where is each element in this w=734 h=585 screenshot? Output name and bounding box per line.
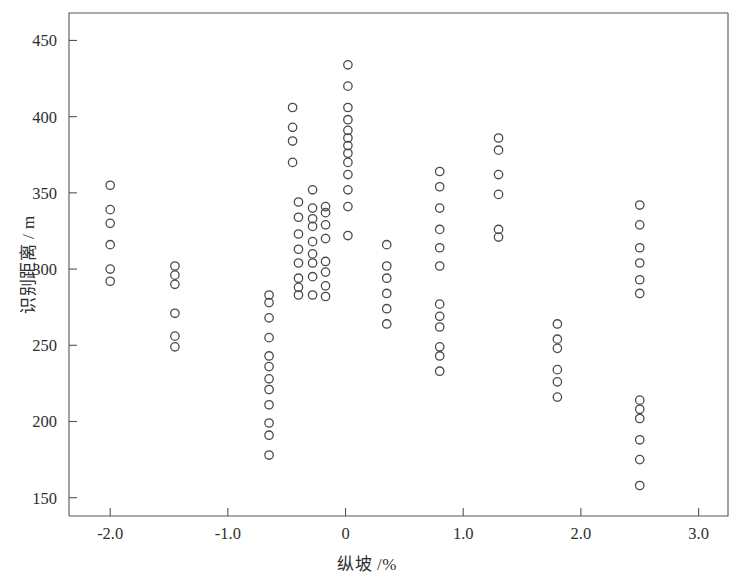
data-point-marker xyxy=(265,333,273,341)
x-tick-label: 1.0 xyxy=(453,524,474,543)
data-point-marker xyxy=(636,414,644,422)
data-point-marker xyxy=(636,481,644,489)
x-axis-title: 纵坡 /% xyxy=(0,550,734,575)
data-point-marker xyxy=(321,282,329,290)
data-point-marker xyxy=(553,335,561,343)
y-tick-label: 200 xyxy=(32,412,57,431)
data-point-marker xyxy=(106,265,114,273)
data-points-group xyxy=(106,61,644,490)
y-tick-label: 450 xyxy=(32,31,57,50)
data-point-marker xyxy=(106,277,114,285)
data-point-marker xyxy=(636,259,644,267)
data-point-marker xyxy=(265,352,273,360)
data-point-marker xyxy=(288,123,296,131)
data-point-marker xyxy=(321,208,329,216)
data-point-marker xyxy=(435,312,443,320)
data-point-marker xyxy=(308,237,316,245)
data-point-marker xyxy=(294,198,302,206)
data-point-marker xyxy=(344,61,352,69)
axes-group xyxy=(69,13,728,516)
data-point-marker xyxy=(294,259,302,267)
data-point-marker xyxy=(494,170,502,178)
data-point-marker xyxy=(265,362,273,370)
plot-frame-bottom-right xyxy=(69,13,728,516)
x-tick-label: 0 xyxy=(341,524,349,543)
data-point-marker xyxy=(636,201,644,209)
data-point-marker xyxy=(294,245,302,253)
data-point-marker xyxy=(344,116,352,124)
data-point-marker xyxy=(106,240,114,248)
data-point-marker xyxy=(308,291,316,299)
data-point-marker xyxy=(171,332,179,340)
data-point-marker xyxy=(321,257,329,265)
data-point-marker xyxy=(553,344,561,352)
data-point-marker xyxy=(494,190,502,198)
data-point-marker xyxy=(294,274,302,282)
data-point-marker xyxy=(494,134,502,142)
data-point-marker xyxy=(636,221,644,229)
data-point-marker xyxy=(288,103,296,111)
data-point-marker xyxy=(553,365,561,373)
data-point-marker xyxy=(288,137,296,145)
data-point-marker xyxy=(435,300,443,308)
data-point-marker xyxy=(435,352,443,360)
data-point-marker xyxy=(265,419,273,427)
data-point-marker xyxy=(636,455,644,463)
data-point-marker xyxy=(636,244,644,252)
data-point-marker xyxy=(383,305,391,313)
data-point-marker xyxy=(106,205,114,213)
data-point-marker xyxy=(344,186,352,194)
data-point-marker xyxy=(106,219,114,227)
data-point-marker xyxy=(553,320,561,328)
data-point-marker xyxy=(171,271,179,279)
data-point-marker xyxy=(321,234,329,242)
data-point-marker xyxy=(435,323,443,331)
data-point-marker xyxy=(383,240,391,248)
data-point-marker xyxy=(344,170,352,178)
data-point-marker xyxy=(106,181,114,189)
data-point-marker xyxy=(344,202,352,210)
data-point-marker xyxy=(294,213,302,221)
data-point-marker xyxy=(265,401,273,409)
axis-tick-labels-group: 150200250300350400450-2.0-1.001.02.03.0 xyxy=(32,31,709,543)
data-point-marker xyxy=(171,280,179,288)
data-point-marker xyxy=(435,262,443,270)
plot-canvas: 150200250300350400450-2.0-1.001.02.03.0 xyxy=(0,0,734,585)
data-point-marker xyxy=(435,343,443,351)
y-axis-title: 识别距离 / m xyxy=(14,195,39,335)
data-point-marker xyxy=(553,378,561,386)
data-point-marker xyxy=(321,221,329,229)
data-point-marker xyxy=(308,259,316,267)
data-point-marker xyxy=(435,367,443,375)
x-tick-label: -1.0 xyxy=(215,524,241,543)
data-point-marker xyxy=(383,262,391,270)
data-point-marker xyxy=(308,204,316,212)
data-point-marker xyxy=(553,393,561,401)
data-point-marker xyxy=(383,274,391,282)
data-point-marker xyxy=(494,146,502,154)
data-point-marker xyxy=(636,289,644,297)
y-tick-label: 400 xyxy=(32,108,57,127)
x-tick-label: 3.0 xyxy=(688,524,709,543)
data-point-marker xyxy=(435,225,443,233)
data-point-marker xyxy=(294,230,302,238)
data-point-marker xyxy=(288,158,296,166)
x-tick-label: 2.0 xyxy=(571,524,592,543)
y-tick-label: 150 xyxy=(32,489,57,508)
data-point-marker xyxy=(171,262,179,270)
data-point-marker xyxy=(171,309,179,317)
data-point-marker xyxy=(636,436,644,444)
data-point-marker xyxy=(308,272,316,280)
data-point-marker xyxy=(344,103,352,111)
data-point-marker xyxy=(265,375,273,383)
data-point-marker xyxy=(435,244,443,252)
data-point-marker xyxy=(308,186,316,194)
scatter-chart-figure: 150200250300350400450-2.0-1.001.02.03.0 … xyxy=(0,0,734,585)
data-point-marker xyxy=(636,396,644,404)
axis-ticks-group xyxy=(69,40,699,516)
data-point-marker xyxy=(265,314,273,322)
data-point-marker xyxy=(265,451,273,459)
data-point-marker xyxy=(383,320,391,328)
data-point-marker xyxy=(435,204,443,212)
data-point-marker xyxy=(636,276,644,284)
